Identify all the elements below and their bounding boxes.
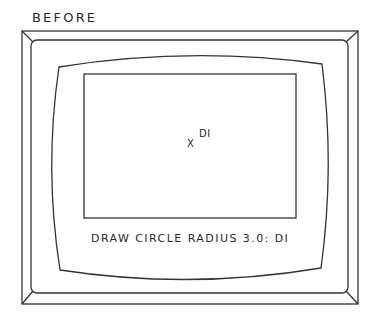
point-label: DI bbox=[199, 129, 211, 139]
command-prompt: DRAW CIRCLE RADIUS 3.0: DI bbox=[91, 233, 289, 244]
bevel-top-right bbox=[346, 31, 358, 42]
outer-bezel bbox=[22, 31, 358, 304]
monitor-drawing bbox=[0, 0, 380, 325]
bevel-top-left bbox=[22, 31, 33, 42]
bevel-bottom-left bbox=[22, 291, 33, 304]
figure-stage: BEFORE X DI DRAW CIRCLE RADIUS 3.0: DI bbox=[0, 0, 380, 325]
crt-screen-outline bbox=[52, 56, 329, 280]
cursor-crosshair-icon: X bbox=[187, 139, 194, 149]
inner-bezel bbox=[31, 40, 348, 293]
figure-title: BEFORE bbox=[32, 11, 97, 24]
bevel-bottom-right bbox=[346, 291, 358, 304]
